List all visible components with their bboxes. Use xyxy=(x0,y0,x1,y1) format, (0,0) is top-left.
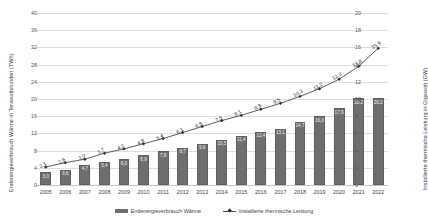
y-tick-right: 16 xyxy=(355,44,371,50)
x-axis-label: 2018 xyxy=(290,189,310,195)
chart-container: Endenergieverbrauch Wärme in Terawattstu… xyxy=(0,0,428,224)
y-axis-right-title: Installierte thermische Leistung in Giga… xyxy=(422,68,428,190)
x-axis-label: 2010 xyxy=(134,189,154,195)
legend-item-line: Installierte thermische Leistung xyxy=(223,208,313,214)
y-tick-right: 4 xyxy=(355,148,371,154)
x-axis-label: 2016 xyxy=(251,189,271,195)
y-tick-left: 24 xyxy=(23,79,37,85)
y-tick-left: 12 xyxy=(23,130,37,136)
legend-label-bar: Endenergieverbrauch Wärme xyxy=(131,208,201,214)
legend-label-line: Installierte thermische Leistung xyxy=(239,208,313,214)
y-axis-left-title: Endenergieverbrauch Wärme in Terawattstu… xyxy=(8,53,14,192)
y-tick-left: 28 xyxy=(23,62,37,68)
y-tick-right: 6 xyxy=(355,130,371,136)
y-tick-right: 14 xyxy=(355,62,371,68)
y-tick-left: 8 xyxy=(23,148,37,154)
bar-swatch-icon xyxy=(115,209,128,213)
y-tick-left: 36 xyxy=(23,27,37,33)
x-axis-label: 2021 xyxy=(349,189,369,195)
x-axis-label: 2011 xyxy=(153,189,173,195)
x-axis-label: 2006 xyxy=(56,189,76,195)
line-swatch-icon xyxy=(223,209,236,213)
gridline xyxy=(36,185,388,186)
x-axis-label: 2013 xyxy=(192,189,212,195)
y-tick-right: 8 xyxy=(355,113,371,119)
legend-item-bar: Endenergieverbrauch Wärme xyxy=(115,208,201,214)
x-axis-label: 2022 xyxy=(368,189,388,195)
x-axis-label: 2015 xyxy=(232,189,252,195)
plot-area: 3,03,64,75,46,06,97,88,79,610,511,412,41… xyxy=(36,13,388,185)
y-tick-right: 0 xyxy=(355,182,371,188)
x-axis-label: 2017 xyxy=(271,189,291,195)
x-axis-label: 2020 xyxy=(329,189,349,195)
y-tick-right: 2 xyxy=(355,165,371,171)
x-axis-label: 2008 xyxy=(95,189,115,195)
x-axis-label: 2012 xyxy=(173,189,193,195)
x-axis-label: 2007 xyxy=(75,189,95,195)
y-tick-left: 4 xyxy=(23,165,37,171)
y-tick-right: 20 xyxy=(355,10,371,16)
chart-legend: Endenergieverbrauch Wärme Installierte t… xyxy=(0,208,428,214)
y-tick-right: 12 xyxy=(355,79,371,85)
x-axis-label: 2005 xyxy=(36,189,56,195)
y-tick-right: 18 xyxy=(355,27,371,33)
x-axis-label: 2019 xyxy=(310,189,330,195)
x-axis-label: 2014 xyxy=(212,189,232,195)
y-tick-left: 16 xyxy=(23,113,37,119)
y-tick-left: 0 xyxy=(23,182,37,188)
y-tick-left: 40 xyxy=(23,10,37,16)
y-tick-left: 32 xyxy=(23,44,37,50)
x-axis-label: 2009 xyxy=(114,189,134,195)
y-tick-right: 10 xyxy=(355,96,371,102)
y-tick-left: 20 xyxy=(23,96,37,102)
line-series xyxy=(36,13,388,185)
